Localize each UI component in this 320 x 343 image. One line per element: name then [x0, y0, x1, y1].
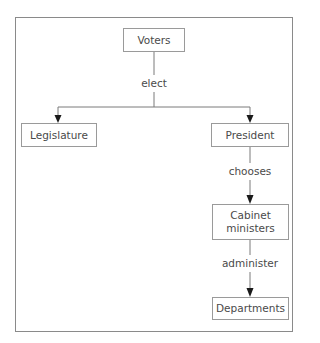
node-cabinet-ministers: Cabinet ministers	[212, 204, 289, 240]
node-voters-label: Voters	[137, 34, 170, 47]
edge-label-chooses: chooses	[228, 163, 273, 180]
arrow-head-cabinet	[247, 195, 254, 204]
node-legislature-label: Legislature	[30, 129, 88, 142]
edge-label-elect: elect	[140, 75, 168, 92]
arrow-head-legislature	[55, 115, 62, 123]
arrow-head-president	[247, 115, 254, 123]
node-legislature: Legislature	[21, 123, 97, 147]
node-president-label: President	[226, 129, 275, 142]
node-cabinet-label-line1: Cabinet	[230, 209, 271, 222]
arrow-head-departments	[247, 288, 254, 297]
node-voters: Voters	[123, 28, 185, 52]
node-departments: Departments	[212, 297, 289, 320]
node-president: President	[211, 123, 289, 147]
node-cabinet-label-line2: ministers	[226, 222, 275, 235]
node-departments-label: Departments	[216, 302, 285, 315]
edge-label-administer: administer	[221, 255, 279, 272]
